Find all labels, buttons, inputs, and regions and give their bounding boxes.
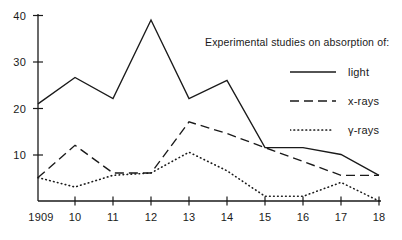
legend-swatch-dotted (290, 125, 336, 135)
legend-swatch-solid (290, 67, 336, 77)
legend-label-gamma-rays: γ-rays (348, 124, 379, 136)
legend-label-x-rays: x-rays (348, 95, 379, 107)
series-line-gamma-rays (38, 152, 379, 201)
chart-legend: Experimental studies on absorption of: l… (205, 36, 400, 48)
legend-item-gamma-rays: γ-rays (290, 124, 379, 136)
x-tick-label-11: 11 (107, 211, 119, 223)
legend-swatch-dashed (290, 96, 336, 106)
legend-title: Experimental studies on absorption of: (205, 36, 400, 48)
legend-item-light: light (290, 66, 369, 78)
x-tick-label-1909: 1909 (28, 211, 53, 223)
x-tick-label-13: 13 (183, 211, 196, 223)
y-tick-label-20: 20 (2, 103, 26, 115)
x-tick-label-17: 17 (335, 211, 348, 223)
x-tick-label-12: 12 (145, 211, 158, 223)
x-tick-label-16: 16 (297, 211, 310, 223)
x-tick-label-15: 15 (259, 211, 272, 223)
y-tick-label-10: 10 (2, 149, 26, 161)
y-tick-label-30: 30 (2, 56, 26, 68)
x-tick-label-18: 18 (373, 211, 386, 223)
legend-item-x-rays: x-rays (290, 95, 379, 107)
legend-label-light: light (348, 66, 369, 78)
y-tick-label-40: 40 (2, 10, 26, 22)
x-tick-label-10: 10 (69, 211, 82, 223)
x-tick-label-14: 14 (221, 211, 234, 223)
chart-container: 40 30 20 10 1909 10 11 12 13 14 15 16 17… (0, 0, 402, 240)
